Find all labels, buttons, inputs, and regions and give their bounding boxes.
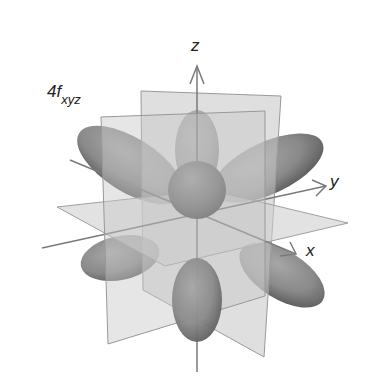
z-axis-label: z [191,36,200,56]
y-axis-label: y [330,172,339,192]
front-lobes [172,258,222,342]
lobe-lower-center [172,258,222,342]
orbital-label-subscript: xyz [61,92,81,107]
orbital-drawing [0,0,377,389]
orbital-label-main: 4f [47,82,61,101]
orbital-label: 4fxyz [47,82,81,102]
orbital-diagram: 4fxyz z y x [0,0,377,389]
x-axis-label: x [306,241,315,261]
